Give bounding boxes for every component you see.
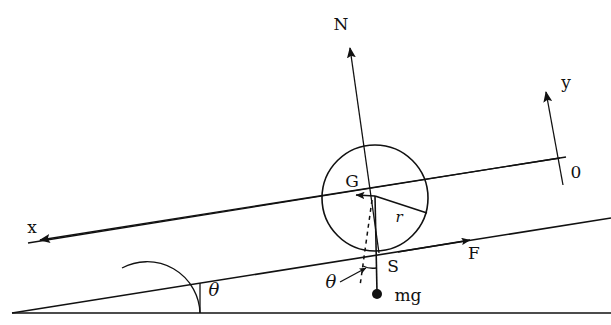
normal-force-arrow [350, 48, 379, 253]
incline-angle-arc [122, 262, 200, 313]
gravity-component-arrow [356, 195, 375, 196]
friction-force-arrow [398, 240, 470, 252]
radius-label: r [395, 208, 403, 226]
friction-force-label: F [468, 243, 480, 263]
weight-dot [372, 289, 382, 299]
incline-surface-line [12, 218, 611, 313]
center-of-gravity-label: G [345, 171, 359, 191]
normal-force-label: N [334, 14, 349, 34]
x-axis-arrow [40, 158, 560, 240]
contact-point-label: S [387, 256, 399, 276]
y-axis-arrow [546, 92, 563, 185]
weight-angle-label: θ [326, 271, 337, 292]
incline-angle-label: θ [209, 279, 220, 300]
dashed-perpendicular-line [360, 200, 372, 286]
y-axis-label: y [560, 72, 571, 92]
physics-diagram-canvas: θ x 0 y F N mg r G S θ [0, 0, 611, 325]
weight-line [375, 196, 377, 292]
x-axis-label: x [27, 217, 37, 237]
free-body-diagram: θ x 0 y F N mg r G S θ [0, 0, 611, 325]
weight-label: mg [394, 285, 421, 305]
origin-label: 0 [571, 162, 582, 182]
